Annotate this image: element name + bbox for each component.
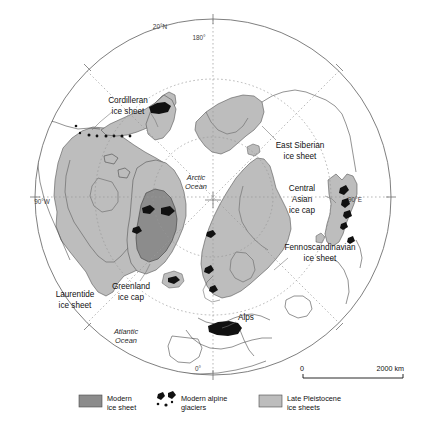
ocean-label-atlantic-line1: Atlantic bbox=[113, 327, 139, 336]
legend-swatch-modern-ice-sheet bbox=[79, 395, 102, 407]
ice-label-laurentide-line2: ice sheet bbox=[59, 301, 92, 310]
ice-label-east-siberian-line1: East Siberian bbox=[276, 141, 325, 150]
alpine-glacier-dot-2 bbox=[96, 135, 99, 138]
scale-bar-start-label: 0 bbox=[300, 364, 304, 373]
ocean-label-atlantic-line2: Ocean bbox=[115, 336, 137, 345]
legend-label-late-pleistocene-line2: ice sheets bbox=[287, 403, 320, 412]
ocean-label-arctic-line1: Arctic bbox=[186, 173, 206, 182]
legend-swatch-late-pleistocene bbox=[259, 395, 282, 407]
legend-label-modern-ice-sheet-line2: ice sheet bbox=[107, 403, 136, 412]
ice-label-east-siberian-line2: ice sheet bbox=[284, 152, 317, 161]
alpine-glacier-dot-4 bbox=[113, 135, 116, 138]
graticule-label-90w: 90°W bbox=[34, 198, 51, 205]
ice-label-central-asian-line1: Central bbox=[289, 184, 316, 193]
ice-label-central-asian-line2: Asian bbox=[292, 195, 313, 204]
ice-label-fennoscandinavian-line2: ice sheet bbox=[304, 254, 337, 263]
alpine-glacier-dot-5 bbox=[121, 135, 124, 138]
alpine-glacier-dot-8 bbox=[79, 132, 81, 134]
graticule-label-180: 180° bbox=[192, 34, 206, 41]
alpine-glacier-dot-6 bbox=[129, 135, 132, 138]
graticule-label-0: 0° bbox=[195, 365, 202, 372]
ice-label-laurentide-line1: Laurentide bbox=[56, 290, 95, 299]
legend-label-late-pleistocene-line1: Late Pleistocene bbox=[287, 394, 341, 403]
ice-label-alps: Alps bbox=[238, 313, 254, 322]
alpine-glacier-dot-1 bbox=[88, 134, 91, 137]
graticule-label-90e: 90°E bbox=[348, 196, 362, 203]
legend-label-modern-alpine-glaciers-line1: Modern alpine bbox=[181, 394, 227, 403]
ice-label-greenland-line2: ice cap bbox=[118, 293, 144, 302]
ice-label-cordilleran-line2: ice sheet bbox=[112, 107, 145, 116]
alpine-glacier-dot-3 bbox=[105, 135, 108, 138]
scale-bar-end-label: 2000 km bbox=[376, 364, 404, 373]
ocean-label-arctic-line2: Ocean bbox=[185, 182, 207, 191]
legend-label-modern-ice-sheet-line1: Modern bbox=[107, 394, 132, 403]
graticule-label-20n: 20°N bbox=[153, 23, 168, 30]
ice-label-fennoscandinavian-line1: Fennoscandinavian bbox=[284, 243, 355, 252]
ice-label-central-asian-line3: ice cap bbox=[289, 206, 315, 215]
ice-label-cordilleran-line1: Cordilleran bbox=[108, 96, 148, 105]
legend-label-modern-alpine-glaciers-line2: glaciers bbox=[181, 403, 206, 412]
ice-sheet-map-figure: 20°N 180° 90°W 90°E 0° Arctic Ocean Atla… bbox=[0, 0, 427, 431]
ice-label-greenland-line1: Greenland bbox=[112, 282, 151, 291]
alpine-glacier-dot-7 bbox=[75, 125, 78, 128]
